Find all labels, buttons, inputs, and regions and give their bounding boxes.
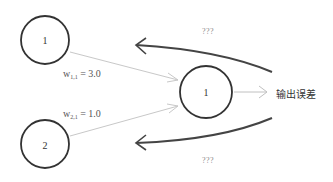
output-error-arrow bbox=[234, 86, 267, 98]
unknown-top-label: ??? bbox=[202, 27, 214, 36]
weight-value: = 1.0 bbox=[80, 108, 101, 119]
input-node-2-label: 2 bbox=[43, 140, 48, 151]
input-node-1-label: 1 bbox=[43, 35, 48, 46]
weight-label-1-1: w1,1 = 3.0 bbox=[63, 68, 101, 80]
weight-subscript: 2,1 bbox=[70, 114, 78, 120]
output-error-label: 输出误差 bbox=[276, 86, 316, 101]
weight-subscript: 1,1 bbox=[70, 74, 78, 80]
weight-value: = 3.0 bbox=[80, 68, 101, 79]
weight-label-2-1: w2,1 = 1.0 bbox=[63, 108, 101, 120]
output-node-label: 1 bbox=[204, 87, 209, 98]
unknown-bottom-label: ??? bbox=[202, 156, 214, 165]
back-arrow-bottom bbox=[136, 118, 272, 150]
